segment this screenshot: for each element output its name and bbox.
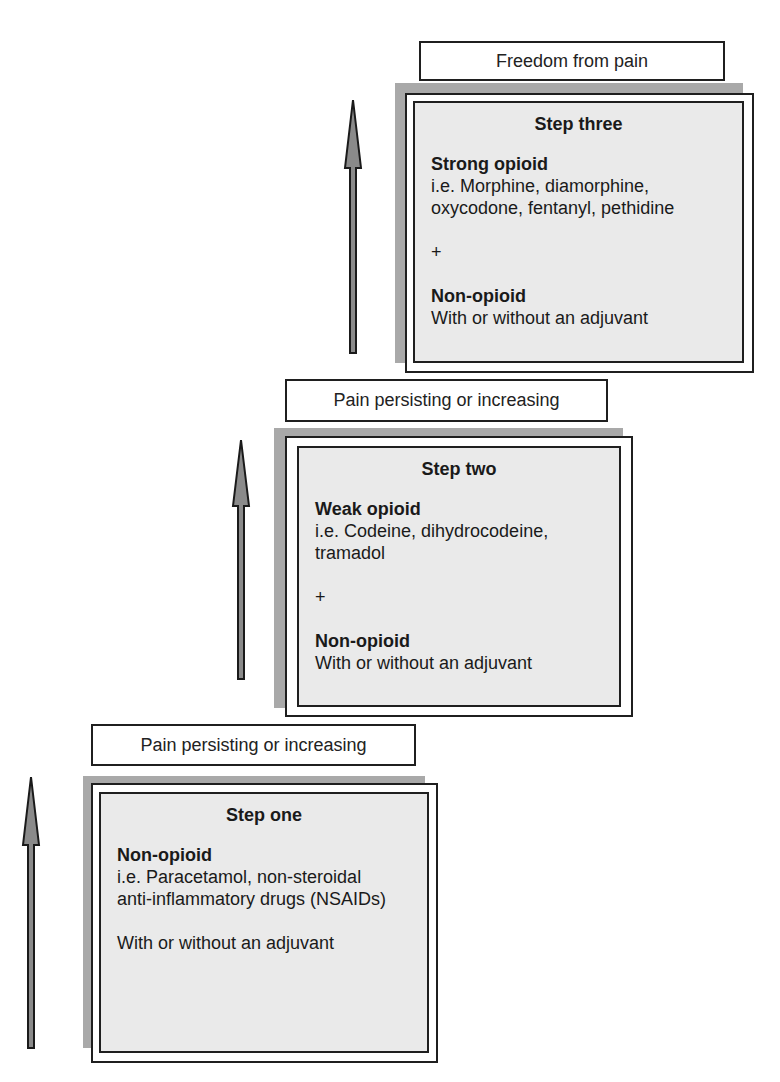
freedom-from-pain-label: Freedom from pain xyxy=(419,41,725,81)
adjuvant-note: With or without an adjuvant xyxy=(117,932,411,954)
label-text: Freedom from pain xyxy=(496,51,648,72)
step-one-title: Step one xyxy=(117,804,411,826)
strong-opioid-examples-1: i.e. Morphine, diamorphine, xyxy=(431,175,726,197)
step-two-box: Step two Weak opioid i.e. Codeine, dihyd… xyxy=(297,446,621,707)
step-one-box: Step one Non-opioid i.e. Paracetamol, no… xyxy=(99,792,429,1053)
weak-opioid-heading: Weak opioid xyxy=(315,498,603,520)
non-opioid-heading: Non-opioid xyxy=(431,285,726,307)
step-three-box: Step three Strong opioid i.e. Morphine, … xyxy=(413,101,744,363)
strong-opioid-examples-2: oxycodone, fentanyl, pethidine xyxy=(431,197,726,219)
step-three-title: Step three xyxy=(431,113,726,135)
non-opioid-examples-2: anti-inflammatory drugs (NSAIDs) xyxy=(117,888,411,910)
up-arrow-icon xyxy=(21,775,41,1051)
strong-opioid-heading: Strong opioid xyxy=(431,153,726,175)
weak-opioid-examples-1: i.e. Codeine, dihydrocodeine, xyxy=(315,520,603,542)
pain-persisting-label-1: Pain persisting or increasing xyxy=(91,724,416,766)
plus-sign: + xyxy=(315,586,603,608)
non-opioid-examples-1: i.e. Paracetamol, non-steroidal xyxy=(117,866,411,888)
label-text: Pain persisting or increasing xyxy=(140,735,366,756)
adjuvant-note: With or without an adjuvant xyxy=(431,307,726,329)
label-text: Pain persisting or increasing xyxy=(333,390,559,411)
pain-persisting-label-2: Pain persisting or increasing xyxy=(285,379,608,422)
non-opioid-heading: Non-opioid xyxy=(117,844,411,866)
up-arrow-icon xyxy=(343,98,363,356)
non-opioid-heading: Non-opioid xyxy=(315,630,603,652)
adjuvant-note: With or without an adjuvant xyxy=(315,652,603,674)
weak-opioid-examples-2: tramadol xyxy=(315,542,603,564)
step-two-title: Step two xyxy=(315,458,603,480)
up-arrow-icon xyxy=(231,438,251,682)
plus-sign: + xyxy=(431,241,726,263)
